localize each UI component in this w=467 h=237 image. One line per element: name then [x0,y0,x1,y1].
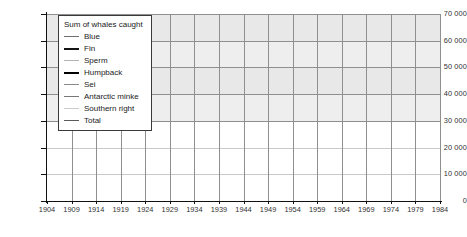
x-axis-tick [96,201,97,204]
x-axis-tick [244,201,245,204]
gridline-vertical [170,14,171,201]
y-axis-tick [41,174,46,175]
y-axis-tick-label: 40 000 [423,90,467,98]
y-axis-tick [41,14,46,15]
legend-item[interactable]: Antarctic minke [64,90,147,102]
legend-item[interactable]: Southern right [64,102,147,114]
x-axis-tick [145,201,146,204]
legend-swatch-icon [64,96,79,97]
legend-item[interactable]: Blue [64,31,147,43]
x-axis-tick [47,201,48,204]
gridline-vertical [219,14,220,201]
gridline-vertical [391,14,392,201]
y-axis-tick-label: 70 000 [423,10,467,18]
legend-swatch-icon [64,36,79,37]
y-axis-tick-label: 50 000 [423,63,467,71]
x-axis-tick-label: 1984 [420,205,460,214]
legend-swatch-icon [64,48,79,50]
y-axis-tick-label: 0 [423,197,467,205]
legend-item-label: Blue [84,31,100,42]
x-axis-tick [391,201,392,204]
x-axis-tick [268,201,269,204]
chart-legend: Sum of whales caught BlueFinSpermHumpbac… [58,15,152,131]
chart-screenshot: { "legend": { "title": "Sum of whales ca… [0,0,467,237]
legend-item[interactable]: Total [64,114,147,126]
legend-swatch-icon [64,108,79,109]
gridline-vertical [317,14,318,201]
x-axis-tick [194,201,195,204]
y-axis-tick [41,94,46,95]
gridline-vertical [342,14,343,201]
y-axis-tick [41,67,46,68]
x-axis-tick [366,201,367,204]
legend-item[interactable]: Humpback [64,67,147,79]
gridline-vertical [366,14,367,201]
x-axis-tick [219,201,220,204]
legend-item-label: Total [84,115,101,126]
y-axis-tick [41,41,46,42]
y-axis-tick-label: 20 000 [423,144,467,152]
legend-swatch-icon [64,120,79,121]
legend-swatch-icon [64,60,79,61]
legend-item-label: Antarctic minke [84,91,139,102]
legend-item-label: Sperm [84,55,108,66]
legend-item[interactable]: Fin [64,43,147,55]
y-axis-tick-label: 10 000 [423,170,467,178]
gridline-vertical [415,14,416,201]
legend-entries: BlueFinSpermHumpbackSeiAntarctic minkeSo… [64,31,147,126]
legend-item-label: Fin [84,43,95,54]
y-axis-tick [41,121,46,122]
legend-title: Sum of whales caught [64,19,147,30]
y-axis-tick-label: 30 000 [423,117,467,125]
legend-item-label: Sei [84,79,96,90]
x-axis-tick [170,201,171,204]
x-axis-tick [72,201,73,204]
legend-swatch-icon [64,84,79,85]
legend-swatch-icon [64,72,79,74]
x-axis-tick [440,201,441,204]
x-axis-tick [121,201,122,204]
gridline-vertical [293,14,294,201]
x-axis-tick [415,201,416,204]
gridline-vertical [268,14,269,201]
y-axis-tick [41,201,46,202]
x-axis-tick [342,201,343,204]
legend-item[interactable]: Sei [64,79,147,91]
y-axis-line [46,12,47,203]
y-axis-tick-label: 60 000 [423,37,467,45]
gridline-vertical [244,14,245,201]
x-axis-tick [317,201,318,204]
legend-item-label: Humpback [84,67,122,78]
y-axis-tick [41,148,46,149]
gridline-vertical [194,14,195,201]
x-axis-tick [293,201,294,204]
legend-item-label: Southern right [84,103,134,114]
legend-item[interactable]: Sperm [64,55,147,67]
